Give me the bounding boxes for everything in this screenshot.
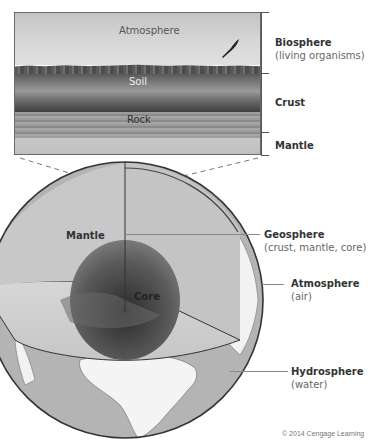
atmosphere-subtitle: (air) bbox=[291, 290, 360, 303]
atmosphere-leader-line bbox=[262, 284, 284, 285]
hydrosphere-subtitle: (water) bbox=[291, 378, 364, 391]
atmosphere-callout: Atmosphere (air) bbox=[291, 277, 360, 303]
copyright-notice: © 2014 Cengage Learning bbox=[282, 430, 364, 437]
mantle-interior-label: Mantle bbox=[66, 230, 105, 241]
geosphere-subtitle: (crust, mantle, core) bbox=[264, 241, 366, 254]
core-label: Core bbox=[134, 291, 160, 302]
hydrosphere-callout: Hydrosphere (water) bbox=[291, 365, 364, 391]
geosphere-leader-line bbox=[125, 234, 260, 235]
atmosphere-title: Atmosphere bbox=[291, 277, 360, 290]
hydrosphere-leader-line bbox=[230, 371, 288, 372]
hydrosphere-title: Hydrosphere bbox=[291, 365, 364, 378]
geosphere-callout: Geosphere (crust, mantle, core) bbox=[264, 228, 366, 254]
geosphere-title: Geosphere bbox=[264, 228, 366, 241]
